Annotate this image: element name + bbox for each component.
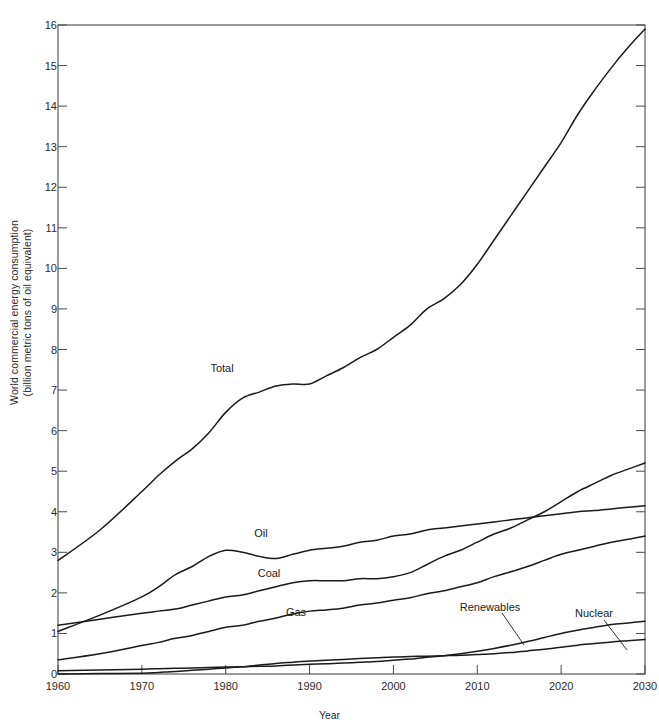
series-label-coal: Coal [258, 567, 281, 579]
plot-area [0, 0, 659, 727]
series-label-renewables: Renewables [460, 601, 521, 613]
plot-frame [58, 25, 645, 674]
series-line-renewables [58, 621, 645, 670]
series-label-nuclear: Nuclear [575, 607, 613, 619]
series-label-oil: Oil [254, 527, 267, 539]
series-line-gas [58, 536, 645, 660]
chart-figure: World commercial energy consumption (bil… [0, 0, 659, 727]
series-label-total: Total [210, 362, 233, 374]
series-line-total [58, 29, 645, 560]
series-label-gas: Gas [286, 606, 306, 618]
leader-line-renewables [502, 613, 524, 645]
